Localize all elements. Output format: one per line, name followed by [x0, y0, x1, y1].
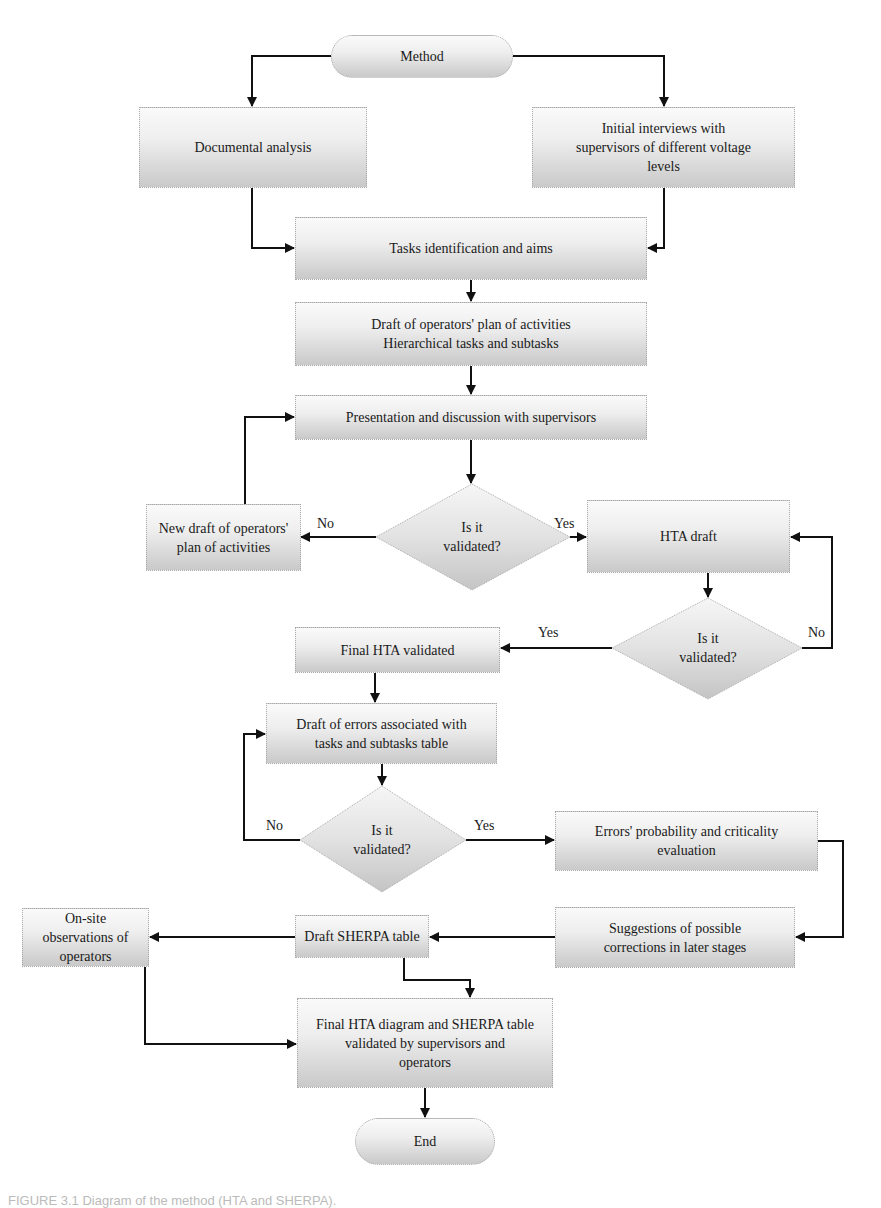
decision2-yes-label: Yes — [538, 625, 558, 641]
decision3-yes-label: Yes — [474, 818, 494, 834]
start-terminal: Method — [331, 35, 513, 78]
presentation-label: Presentation and discussion with supervi… — [346, 408, 596, 427]
hta-draft-label: HTA draft — [660, 527, 717, 546]
new-draft-label: New draft of operators' plan of activiti… — [159, 519, 289, 557]
end-label: End — [414, 1132, 437, 1151]
final-diagram-box: Final HTA diagram and SHERPA table valid… — [297, 998, 553, 1088]
figure-caption: FIGURE 3.1 Diagram of the method (HTA an… — [8, 1193, 336, 1208]
final-hta-validated-label: Final HTA validated — [341, 641, 455, 660]
onsite-observations-label: On-site observations of operators — [31, 909, 140, 966]
new-draft-box: New draft of operators' plan of activiti… — [146, 504, 301, 571]
hta-draft-box: HTA draft — [587, 500, 790, 573]
documental-analysis-box: Documental analysis — [139, 107, 367, 188]
decision3-label: Is it validated? — [322, 818, 442, 862]
tasks-identification-label: Tasks identification and aims — [389, 239, 552, 258]
draft-plan-label: Draft of operators' plan of activities H… — [371, 315, 571, 353]
decision3-no-label: No — [266, 818, 283, 834]
draft-plan-box: Draft of operators' plan of activities H… — [295, 302, 647, 366]
onsite-observations-box: On-site observations of operators — [22, 908, 149, 967]
initial-interviews-box: Initial interviews with supervisors of d… — [532, 107, 795, 188]
draft-sherpa-label: Draft SHERPA table — [304, 927, 419, 946]
final-diagram-label: Final HTA diagram and SHERPA table valid… — [316, 1015, 534, 1072]
draft-errors-label: Draft of errors associated with tasks an… — [296, 715, 466, 753]
suggestions-box: Suggestions of possible corrections in l… — [555, 907, 795, 968]
decision1-no-label: No — [317, 516, 334, 532]
draft-errors-box: Draft of errors associated with tasks an… — [266, 703, 497, 764]
final-hta-validated-box: Final HTA validated — [295, 627, 500, 673]
presentation-box: Presentation and discussion with supervi… — [295, 395, 647, 440]
documental-analysis-label: Documental analysis — [194, 138, 311, 157]
initial-interviews-label: Initial interviews with supervisors of d… — [576, 119, 751, 176]
start-label: Method — [400, 47, 444, 66]
errors-probability-label: Errors' probability and criticality eval… — [595, 822, 778, 860]
tasks-identification-box: Tasks identification and aims — [295, 217, 647, 280]
decision1-yes-label: Yes — [554, 516, 574, 532]
errors-probability-box: Errors' probability and criticality eval… — [555, 811, 818, 871]
decision2-label: Is it validated? — [648, 626, 768, 670]
decision2-no-label: No — [808, 625, 825, 641]
end-terminal: End — [355, 1118, 495, 1165]
decision1-label: Is it validated? — [412, 515, 532, 559]
suggestions-label: Suggestions of possible corrections in l… — [604, 919, 747, 957]
draft-sherpa-box: Draft SHERPA table — [295, 915, 429, 958]
